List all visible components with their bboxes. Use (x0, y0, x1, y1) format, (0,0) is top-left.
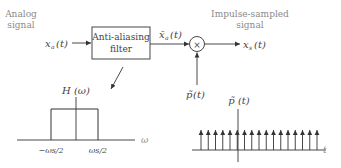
filter-label-line2: filter (110, 44, 133, 54)
tick-right-label: ωs/2 (89, 146, 107, 155)
tick-left-label: −ωs/2 (38, 146, 63, 155)
output-signal-label: x s (t) (243, 39, 266, 51)
impulses (201, 130, 317, 150)
svg-text:p̃: p̃ (186, 89, 193, 100)
filter-label-line1: Anti-aliasing (91, 32, 150, 42)
filtered-signal-label: x̄ a (t) (159, 29, 182, 41)
svg-text:(t): (t) (170, 29, 182, 40)
input-caption-line2: signal (7, 20, 34, 30)
impulse-train-plot: p̃ (t) t (192, 95, 327, 162)
filter-response-pointer (111, 67, 123, 89)
sampling-signal-label: p̃ (t) (186, 89, 205, 100)
t-axis-label: t (323, 145, 327, 155)
output-caption-line1: Impulse-sampled (211, 9, 289, 19)
filter-frequency-response-plot: H (ω) ω −ωs/2 ωs/2 (17, 85, 149, 155)
sampling-block-diagram: Analog signal x a (t) Anti-aliasing filt… (0, 0, 341, 168)
input-signal-label: x a (t) (45, 38, 68, 50)
output-caption-line2: signal (236, 20, 263, 30)
svg-text:(t): (t) (56, 38, 68, 49)
svg-text:(t): (t) (254, 39, 266, 50)
passband-rect (51, 109, 98, 140)
input-caption-line1: Analog (4, 9, 37, 19)
multiply-icon: × (193, 40, 201, 50)
omega-axis-label: ω (141, 135, 149, 145)
impulse-train-title: p̃ (t) (228, 95, 250, 106)
svg-text:a: a (165, 34, 169, 41)
filter-response-title: H (ω) (61, 85, 90, 96)
svg-text:a: a (51, 43, 55, 50)
svg-text:(t): (t) (193, 89, 205, 100)
svg-text:s: s (249, 44, 252, 51)
